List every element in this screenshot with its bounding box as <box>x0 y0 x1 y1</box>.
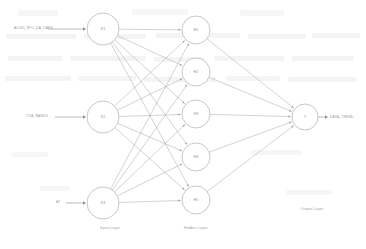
arrowhead-icon <box>83 115 86 118</box>
neural-network-diagram: X1X2X3H1H2H3H4H5Y ALUVI_SPC_DA_DARKTOA_B… <box>0 0 366 249</box>
arrowhead-icon <box>187 43 189 46</box>
arrowhead-icon <box>289 122 292 124</box>
node-label-h5: H5 <box>194 198 199 202</box>
edge-X1-to-H3 <box>115 40 185 104</box>
caption-output-layer: Output Layer <box>300 207 324 211</box>
arrowhead-icon <box>180 79 183 81</box>
node-label-x3: X3 <box>101 201 106 205</box>
arrowhead-icon <box>83 201 86 204</box>
network-canvas: X1X2X3H1H2H3H4H5Y ALUVI_SPC_DA_DARKTOA_B… <box>0 0 366 249</box>
edge-H2-to-Y <box>209 77 292 111</box>
node-label-y: Y <box>304 115 307 119</box>
node-label-h3: H3 <box>194 112 199 116</box>
node-label-h2: H2 <box>194 70 199 74</box>
node-label-x1: X1 <box>101 27 106 31</box>
node-label-h4: H4 <box>194 155 199 159</box>
edge-H1-to-Y <box>207 39 294 108</box>
edge-H5-to-Y <box>207 126 293 192</box>
arrowhead-icon <box>83 27 86 30</box>
input-feature-label-1: ALUVI_SPC_DA_DARK <box>14 26 54 30</box>
edge-X3-to-H5 <box>119 201 181 203</box>
arrowhead-icon <box>187 184 189 187</box>
arrowhead-icon <box>178 29 180 31</box>
arrowhead-icon <box>185 84 187 87</box>
caption-hidden-layer: Hidden Layer <box>184 226 208 230</box>
edge-X1-to-H1 <box>119 29 181 30</box>
arrowhead-icon <box>289 110 292 112</box>
input-feature-label-3: AT <box>56 200 60 204</box>
edge-X3-to-H3 <box>115 125 185 192</box>
arrowhead-icon <box>178 114 180 116</box>
caption-input-layer: Input Layer <box>100 226 121 230</box>
edge-X1-to-H2 <box>118 36 182 66</box>
arrowhead-icon <box>178 200 180 202</box>
edge-X1-to-H4 <box>112 42 186 145</box>
node-label-h1: H1 <box>194 28 199 32</box>
layer-caption-group: Input Layer Hidden Layer Output Layer <box>100 207 324 230</box>
edge-H3-to-Y <box>210 114 291 116</box>
edge-H4-to-Y <box>209 122 291 152</box>
node-group: X1X2X3H1H2H3H4H5Y <box>87 13 318 219</box>
arrowhead-icon <box>180 164 183 166</box>
node-label-x2: X2 <box>101 115 106 119</box>
arrowhead-icon <box>179 149 182 151</box>
output-target-label-1: DATA_TREND <box>330 115 354 119</box>
arrowhead-icon <box>185 142 187 145</box>
input-feature-label-2: TOA_BANDS <box>26 114 48 118</box>
edge-X3-to-H2 <box>112 85 187 190</box>
arrowhead-icon <box>325 115 328 118</box>
arrowhead-icon <box>180 64 183 66</box>
arrowhead-icon <box>288 116 290 118</box>
